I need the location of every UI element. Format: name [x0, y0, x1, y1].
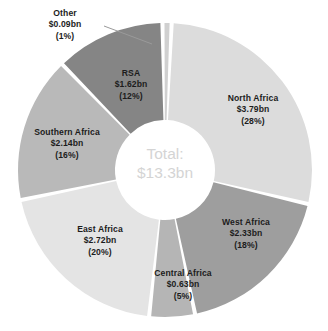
center-total-value: $13.3bn [115, 163, 215, 182]
pie-slice-east-africa[interactable] [22, 181, 159, 316]
pie-slice-west-africa[interactable] [176, 182, 308, 313]
center-total: Total: $13.3bn [115, 144, 215, 182]
donut-chart: North Africa $3.79bn (28%) West Africa $… [0, 0, 328, 331]
center-total-label: Total: [115, 144, 215, 163]
